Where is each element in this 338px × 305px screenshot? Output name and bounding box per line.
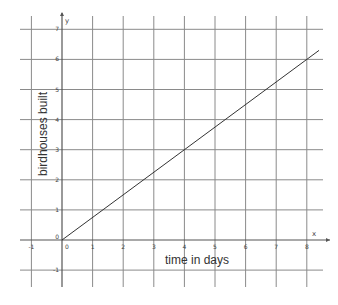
chart: -1012345678-101234567 time in days birdh… (0, 0, 338, 305)
series-line-0 (62, 50, 319, 240)
x-tick-label: -1 (28, 243, 34, 250)
y-tick-label: 4 (55, 116, 59, 123)
series-layer (62, 50, 319, 240)
y-tick-label: 1 (55, 206, 59, 213)
x-tick-label: 7 (274, 243, 278, 250)
y-axis-title: birdhouses built (36, 91, 50, 176)
y-axis-arrow-icon (60, 12, 64, 16)
x-axis-title: time in days (165, 253, 229, 267)
x-axis-arrow-icon (326, 238, 330, 242)
x-tick-label: 6 (244, 243, 248, 250)
y-tick-label: -1 (53, 266, 59, 273)
x-tick-label: 8 (305, 243, 309, 250)
y-tick-label: 5 (55, 86, 59, 93)
y-axis-name: y (65, 17, 69, 25)
x-tick-label: 0 (65, 243, 69, 250)
y-tick-label: 3 (55, 146, 59, 153)
x-tick-label: 2 (121, 243, 125, 250)
x-tick-label: 1 (91, 243, 95, 250)
y-tick-label: 0 (55, 233, 59, 240)
x-tick-label: 4 (182, 243, 186, 250)
y-tick-label: 6 (55, 55, 59, 62)
x-tick-label: 5 (213, 243, 217, 250)
x-tick-label: 3 (152, 243, 156, 250)
y-tick-label: 2 (55, 176, 59, 183)
y-tick-label: 7 (55, 25, 59, 32)
x-axis-name: x (312, 230, 316, 238)
